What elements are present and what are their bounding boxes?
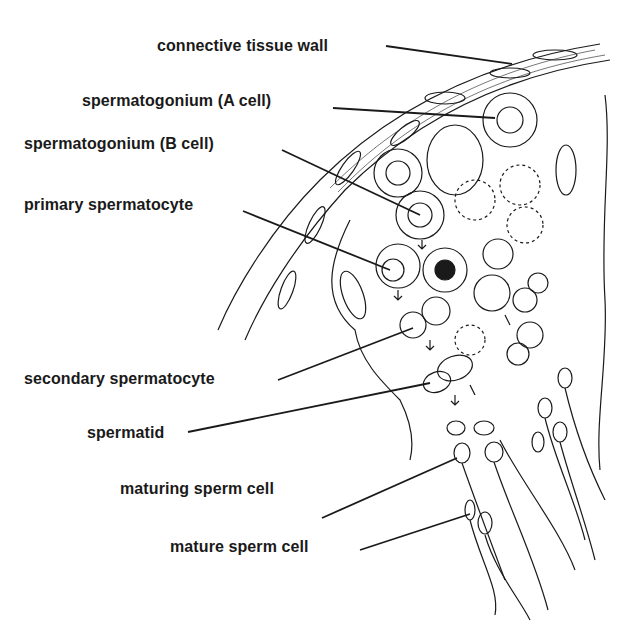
leader-spermatogonium-b [282, 150, 420, 215]
label-connective-tissue-wall: connective tissue wall [157, 37, 328, 55]
label-spermatogonium-a: spermatogonium (A cell) [82, 92, 271, 110]
label-spermatogonium-b: spermatogonium (B cell) [24, 135, 214, 153]
label-primary-spermatocyte: primary spermatocyte [24, 196, 193, 214]
label-spermatid: spermatid [87, 424, 164, 442]
tubule-outer-wall [218, 44, 600, 330]
label-maturing-sperm-cell: maturing sperm cell [120, 480, 274, 498]
leader-spermatid [188, 383, 430, 432]
leader-secondary-spermatocyte [278, 328, 413, 380]
label-mature-sperm-cell: mature sperm cell [170, 538, 309, 556]
tubule-inner-wall [245, 60, 610, 340]
leader-spermatogonium-a [333, 108, 495, 118]
leader-maturing-sperm-cell [322, 458, 457, 518]
leader-connective-tissue-wall [386, 46, 512, 64]
leader-mature-sperm-cell [360, 514, 470, 550]
label-secondary-spermatocyte: secondary spermatocyte [24, 370, 215, 388]
leader-lines [188, 46, 512, 550]
leader-primary-spermatocyte [243, 211, 390, 270]
